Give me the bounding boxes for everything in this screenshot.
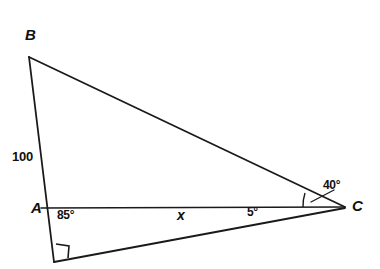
angle-label-a: 85° — [57, 209, 74, 221]
angle-label-c-lower: 5° — [247, 206, 258, 218]
side-length-label-ab: 100 — [12, 150, 33, 163]
vertex-label-a: A — [31, 200, 42, 215]
vertex-label-b: B — [25, 27, 36, 42]
vertex-label-c: C — [352, 198, 363, 213]
segment-a-to-c — [41, 207, 345, 208]
geometry-figure: B A C 100 85° x 5° 40° — [0, 0, 380, 269]
right-angle-marker-icon — [56, 244, 69, 258]
segment-d-to-c — [54, 208, 345, 262]
side-length-label-ac: x — [177, 208, 185, 222]
geometry-canvas — [0, 0, 380, 269]
angle-arc-at-c — [303, 193, 305, 207]
segment-b-to-c — [29, 57, 345, 207]
angle-label-c-upper: 40° — [323, 179, 340, 191]
